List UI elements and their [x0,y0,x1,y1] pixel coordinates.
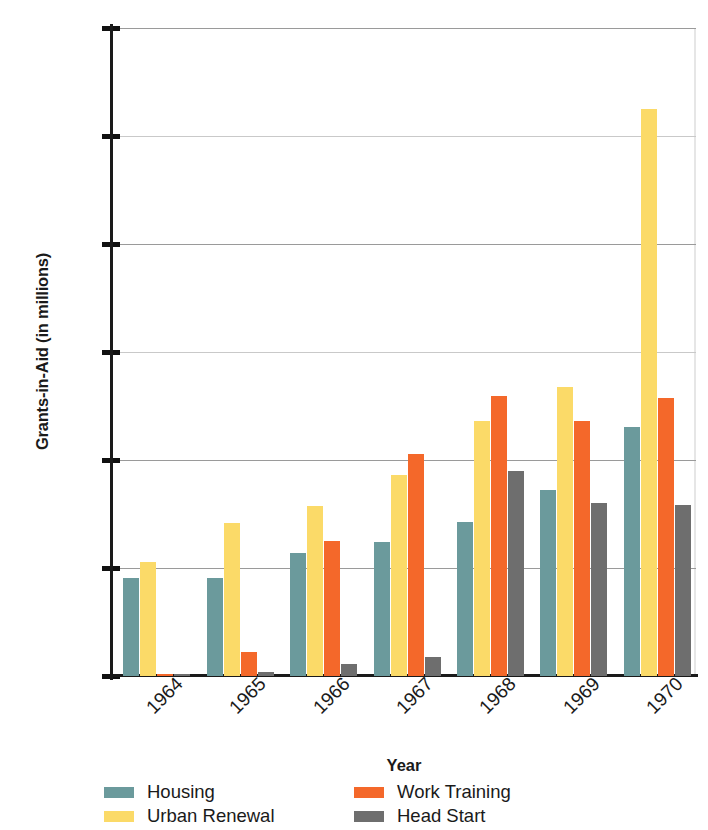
legend-entry-housing: Housing [104,782,354,802]
legend-label: Work Training [397,782,511,802]
y-axis-title: Grants-in-Aid (in millions) [33,162,52,542]
bar-housing-1964 [123,578,139,676]
legend-swatch-urban-renewal [104,811,134,822]
legend-entry-head-start: Head Start [354,806,604,826]
legend-swatch-head-start [354,811,384,822]
bar-urban-renewal-1969 [557,387,573,676]
bar-work-training-1969 [574,421,590,676]
bar-work-training-1970 [658,398,674,676]
bar-work-training-1968 [491,396,507,676]
bar-urban-renewal-1964 [140,562,156,676]
legend-label: Head Start [397,806,485,826]
bar-housing-1970 [624,427,640,676]
legend-entry-work-training: Work Training [354,782,604,802]
bar-urban-renewal-1965 [224,523,240,676]
bar-housing-1965 [207,578,223,676]
bar-housing-1969 [540,490,556,676]
bar-urban-renewal-1967 [391,475,407,676]
legend-swatch-housing [104,787,134,798]
bar-work-training-1967 [408,454,424,676]
bar-head-start-1968 [508,471,524,676]
bar-urban-renewal-1966 [307,506,323,676]
bar-urban-renewal-1968 [474,421,490,676]
legend-entry-urban-renewal: Urban Renewal [104,806,354,826]
bar-head-start-1970 [675,505,691,676]
legend-swatch-work-training [354,787,384,798]
bars-layer [112,28,696,676]
bar-housing-1968 [457,522,473,676]
grouped-bar-chart: Grants-in-Aid (in millions) 020040060080… [0,0,708,830]
bar-urban-renewal-1970 [641,109,657,676]
bar-head-start-1969 [591,503,607,676]
x-axis-title: Year [112,756,696,775]
legend-label: Housing [147,782,215,802]
bar-housing-1967 [374,542,390,676]
chart-legend: HousingWork TrainingUrban RenewalHead St… [104,780,624,828]
bar-housing-1966 [290,553,306,676]
bar-work-training-1966 [324,541,340,676]
legend-label: Urban Renewal [147,806,275,826]
